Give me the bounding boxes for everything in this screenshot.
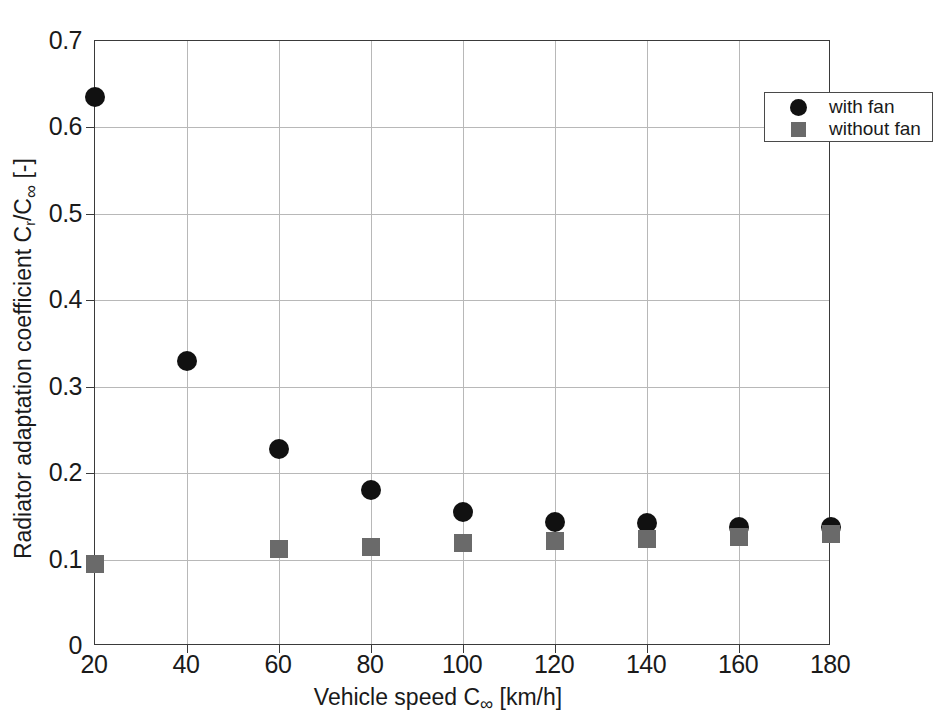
x-tick-label: 60 — [265, 650, 292, 679]
gridline — [95, 214, 829, 215]
y-axis-title: Radiator adaptation coefficient Cr/C∞ [-… — [10, 39, 41, 679]
x-tick-label: 120 — [534, 650, 574, 679]
circle-marker-icon — [783, 99, 813, 116]
x-axis-title-unit: [km/h] — [493, 684, 562, 710]
legend-item-with-fan: with fan — [765, 96, 932, 118]
data-point — [177, 351, 197, 371]
x-axis-title-subscript: ∞ — [480, 693, 493, 714]
gridline — [555, 41, 556, 644]
axis-tick — [86, 214, 95, 215]
data-point — [453, 502, 473, 522]
gridline — [95, 560, 829, 561]
data-point — [362, 538, 380, 556]
legend-item-without-fan: without fan — [765, 118, 932, 140]
gridline — [95, 387, 829, 388]
data-point — [638, 530, 656, 548]
data-point — [361, 480, 381, 500]
y-axis-title-subscript-inf: ∞ — [20, 185, 41, 198]
plot-area: with fan without fan — [94, 40, 830, 645]
axis-tick — [86, 127, 95, 128]
data-point — [545, 512, 565, 532]
x-tick-label: 180 — [810, 650, 850, 679]
x-tick-label: 80 — [357, 650, 384, 679]
x-axis-title-text: Vehicle speed C — [314, 684, 480, 710]
data-point — [454, 534, 472, 552]
gridline — [95, 127, 829, 128]
data-point — [730, 528, 748, 546]
data-point — [270, 540, 288, 558]
x-tick-label: 40 — [173, 650, 200, 679]
legend: with fan without fan — [764, 92, 933, 142]
y-axis-title-unit: [-] — [10, 158, 36, 185]
gridline — [647, 41, 648, 644]
data-point — [85, 87, 105, 107]
x-tick-label: 160 — [718, 650, 758, 679]
x-axis-title: Vehicle speed C∞ [km/h] — [0, 684, 876, 715]
x-tick-label: 100 — [442, 650, 482, 679]
axis-tick — [86, 473, 95, 474]
gridline — [95, 300, 829, 301]
gridline — [463, 41, 464, 644]
y-axis-title-divider: /C — [10, 198, 36, 221]
data-point — [822, 525, 840, 543]
legend-label: with fan — [829, 96, 894, 118]
data-point — [86, 555, 104, 573]
axis-tick — [86, 387, 95, 388]
axis-tick — [86, 300, 95, 301]
square-marker-icon — [783, 122, 813, 137]
gridline — [95, 473, 829, 474]
y-axis-title-text: Radiator adaptation coefficient C — [10, 226, 36, 559]
x-tick-label: 20 — [81, 650, 108, 679]
x-tick-label: 140 — [626, 650, 666, 679]
y-axis-title-subscript-r: r — [22, 221, 38, 226]
legend-label: without fan — [829, 118, 921, 140]
gridline — [739, 41, 740, 644]
data-point — [546, 532, 564, 550]
data-point — [269, 439, 289, 459]
gridline — [187, 41, 188, 644]
